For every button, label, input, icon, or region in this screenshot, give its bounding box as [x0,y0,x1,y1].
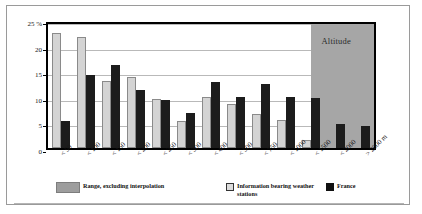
bar [261,84,270,148]
bar [161,100,170,148]
y-axis-tick-label: 0 [2,148,42,156]
bar [111,65,120,148]
y-axis-tick-label: 25 % [2,20,42,28]
chart-figure: Altitude 0510152025 % < 50< 100< 150< 20… [0,0,422,214]
y-axis-tick-label: 5 [2,122,42,130]
bar [152,99,161,148]
y-axis-tick-mark [43,126,46,127]
dark-swatch-icon [326,183,334,191]
legend-label-france: France [337,182,356,190]
bar [236,97,245,148]
bar [52,33,61,148]
bar-group [48,24,73,148]
y-axis-tick-label: 20 [2,46,42,54]
bar [86,75,95,148]
bar [286,97,295,148]
bar-group [274,24,299,148]
bar-group [98,24,123,148]
bar [361,126,370,148]
legend-label-range: Range, excluding interpolation [83,182,164,190]
y-axis-tick-mark [43,24,46,25]
bar [102,81,111,148]
chart-legend: Range, excluding interpolation Informati… [14,182,404,204]
bar-group [349,24,374,148]
bar-group [173,24,198,148]
legend-label-stations: Information bearing weather stations [237,182,318,197]
bar-group [198,24,223,148]
legend-item-stations: Information bearing weather stations [226,182,318,197]
bar [177,121,186,148]
bar-groups [48,24,374,148]
bar [202,97,211,148]
plot-area: Altitude [46,22,376,150]
bar [277,120,286,148]
bar [252,114,261,148]
y-axis-tick-mark [43,50,46,51]
bar-group [324,24,349,148]
bar [211,82,220,149]
bar-group [73,24,98,148]
legend-item-range: Range, excluding interpolation [56,182,164,193]
legend-item-france: France [326,182,356,191]
legend-divider [14,203,404,204]
bar-group [299,24,324,148]
bar [136,90,145,148]
y-axis-tick-label: 15 [2,71,42,79]
bar-group [224,24,249,148]
bar [227,104,236,148]
bar-group [249,24,274,148]
plot-frame: Altitude [46,22,376,150]
bar [311,98,320,148]
y-axis-tick-label: 10 [2,97,42,105]
light-swatch-icon [226,183,234,191]
bar [77,37,86,148]
bar-group [123,24,148,148]
bar-group [148,24,173,148]
range-swatch-icon [56,182,80,193]
x-axis-labels: < 50< 100< 150< 200< 250< 300< 400< 500<… [46,152,376,186]
y-axis-tick-mark [43,101,46,102]
bar [127,77,136,148]
y-axis-tick-mark [43,75,46,76]
